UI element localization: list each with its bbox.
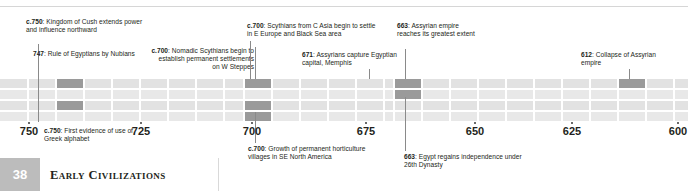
band-cell <box>169 90 195 99</box>
annotation-date: c.700 <box>248 145 265 152</box>
band-cell <box>85 101 111 110</box>
band-cell <box>197 79 223 88</box>
band-cell <box>535 79 561 88</box>
band-cell <box>113 90 139 99</box>
band-cell <box>423 101 449 110</box>
band-cell <box>479 90 505 99</box>
band-cell <box>85 90 111 99</box>
band-cell <box>29 101 55 110</box>
annotation-date: 612 <box>581 51 592 58</box>
band-cell <box>273 90 299 99</box>
band-cell <box>619 90 645 99</box>
annotation-text: Scythians from C Asia begin to settle in… <box>247 22 375 37</box>
band-cell <box>85 112 111 121</box>
band-cell <box>113 112 139 121</box>
band-cell <box>141 90 167 99</box>
band-cell <box>197 90 223 99</box>
band-cell <box>619 101 645 110</box>
band-cell <box>507 101 533 110</box>
band-cell <box>197 101 223 110</box>
annotation-greek-alphabet: c.750: First evidence of use of Greek al… <box>44 127 142 143</box>
band-cell <box>395 101 421 110</box>
band-cell <box>451 112 477 121</box>
annotation-text: Nomadic Scythians begin to establish per… <box>158 47 254 70</box>
section-title: Early Civilizations <box>50 168 166 183</box>
band-cell <box>169 112 195 121</box>
band-cell <box>57 90 83 99</box>
annotation-nubians: 747: Rule of Egyptians by Nubians <box>33 50 145 58</box>
band-cell <box>329 101 355 110</box>
band-cell <box>301 101 327 110</box>
band-cell <box>591 112 617 121</box>
timeline-row-2 <box>0 90 688 99</box>
band-cell <box>357 112 383 121</box>
band-cell <box>0 79 27 88</box>
band-cell <box>273 101 299 110</box>
page-number: 38 <box>0 167 40 182</box>
band-cell <box>479 101 505 110</box>
timeline-row-4 <box>0 112 688 121</box>
band-cell <box>57 112 83 121</box>
band-cell <box>385 101 393 110</box>
leader-line-greek-alphabet <box>38 72 39 122</box>
band-cell <box>197 112 223 121</box>
axis-tick-dot <box>474 122 476 124</box>
band-cell <box>535 112 561 121</box>
annotation-date: 671 <box>302 51 313 58</box>
annotation-text: Assyrians capture Egyptian capital, Memp… <box>302 51 397 66</box>
band-cell <box>423 79 449 88</box>
band-cell <box>141 101 167 110</box>
band-cell <box>507 90 533 99</box>
band-cell <box>29 79 55 88</box>
axis-tick-dot <box>677 122 679 124</box>
page-footer: 38 Early Civilizations <box>0 158 688 191</box>
band-cell <box>395 112 421 121</box>
band-cell <box>0 112 27 121</box>
band-cell-highlight <box>395 90 421 99</box>
band-cell <box>357 79 383 88</box>
timeline-page: c.750: Kingdom of Cush extends power and… <box>0 0 688 191</box>
band-cell <box>535 101 561 110</box>
axis-tick-label-700: 700 <box>243 125 261 137</box>
band-cell <box>479 112 505 121</box>
band-cell-highlight <box>245 101 271 110</box>
band-cell <box>647 112 673 121</box>
annotation-cush: c.750: Kingdom of Cush extends power and… <box>26 18 148 34</box>
band-cell <box>385 79 393 88</box>
band-cell <box>225 112 243 121</box>
band-cell <box>451 101 477 110</box>
band-cell <box>357 90 383 99</box>
band-cell <box>535 90 561 99</box>
annotation-collapse: 612: Collapse of Assyrian empire <box>581 51 665 67</box>
band-cell-highlight <box>395 79 421 88</box>
band-cell <box>29 112 55 121</box>
axis-tick-dot <box>28 122 30 124</box>
band-cell <box>563 90 589 99</box>
band-cell <box>451 79 477 88</box>
band-cell <box>423 90 449 99</box>
band-cell <box>273 112 299 121</box>
band-cell-highlight <box>619 79 645 88</box>
band-cell <box>563 79 589 88</box>
top-divider-rule <box>0 6 688 7</box>
axis-tick-dot <box>365 122 367 124</box>
axis-tick-dot <box>251 122 253 124</box>
band-cell <box>329 79 355 88</box>
band-cell <box>85 79 111 88</box>
band-cell <box>675 112 688 121</box>
annotation-date: c.700 <box>247 22 264 29</box>
band-cell <box>225 101 243 110</box>
timeline-band <box>0 79 688 122</box>
band-cell <box>591 90 617 99</box>
band-cell <box>423 112 449 121</box>
band-cell <box>357 101 383 110</box>
axis-tick-label-750: 750 <box>20 125 38 137</box>
axis-tick-label-650: 650 <box>466 125 484 137</box>
band-cell <box>329 90 355 99</box>
band-cell <box>0 90 27 99</box>
band-cell <box>301 90 327 99</box>
band-cell <box>563 101 589 110</box>
band-cell <box>647 101 673 110</box>
band-cell <box>479 79 505 88</box>
band-cell <box>563 112 589 121</box>
